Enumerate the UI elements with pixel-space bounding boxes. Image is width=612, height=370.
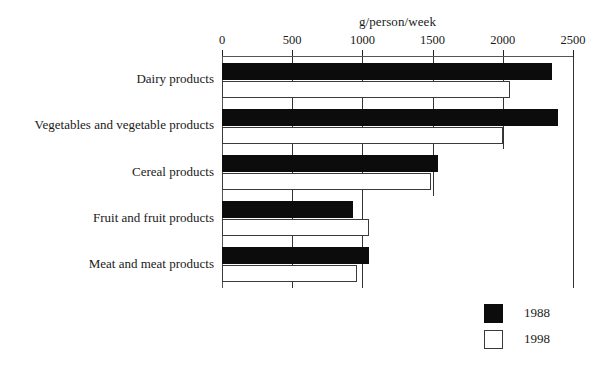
category-label-3: Fruit and fruit products [93, 210, 214, 226]
x-tick-label-500: 500 [283, 33, 302, 48]
category-label-0: Dairy products [136, 71, 214, 87]
bar-1988-group-3 [222, 201, 353, 218]
bar-1998-group-2 [222, 173, 431, 190]
x-tick-label-1000: 1000 [350, 33, 375, 48]
bar-1988-group-0 [222, 63, 552, 80]
legend-swatch-1998-icon [484, 330, 503, 349]
x-tick-label-1500: 1500 [420, 33, 445, 48]
x-tick-label-2000: 2000 [490, 33, 515, 48]
category-label-2: Cereal products [132, 164, 214, 180]
bar-chart: g/person/week 05001000150020002500 Dairy… [0, 0, 612, 370]
bar-1988-group-2 [222, 155, 438, 172]
legend-item-1998: 1998 [484, 326, 550, 352]
legend-label-1988: 1988 [524, 305, 550, 321]
x-axis-line [222, 56, 573, 57]
legend-item-1988: 1988 [484, 300, 550, 326]
category-label-4: Meat and meat products [89, 256, 214, 272]
gridline-2500 [573, 57, 574, 288]
bar-1998-group-0 [222, 81, 510, 98]
x-tick-mark-2500 [573, 50, 574, 57]
bar-1998-group-3 [222, 219, 369, 236]
legend-label-1998: 1998 [524, 331, 550, 347]
x-tick-label-2500: 2500 [561, 33, 586, 48]
axis-unit-title: g/person/week [222, 14, 573, 30]
bar-1998-group-4 [222, 265, 357, 282]
legend-swatch-1988-icon [484, 304, 503, 323]
bar-1988-group-4 [222, 247, 369, 264]
category-label-1: Vegetables and vegetable products [35, 117, 214, 133]
chart-legend: 1988 1998 [484, 300, 550, 352]
bar-1988-group-1 [222, 109, 558, 126]
x-tick-label-0: 0 [219, 33, 225, 48]
bar-1998-group-1 [222, 127, 503, 144]
